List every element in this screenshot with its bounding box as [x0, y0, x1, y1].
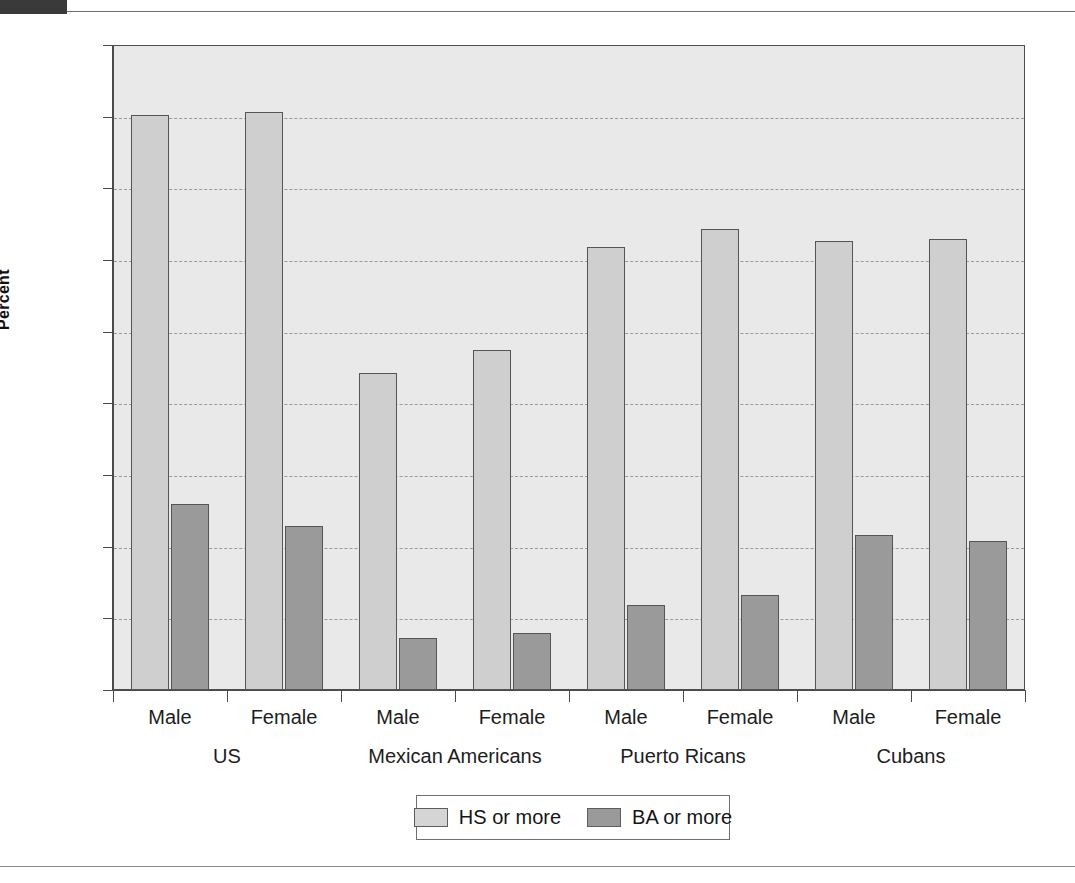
bar-hs-or-more — [701, 229, 739, 690]
bar-hs-or-more — [359, 373, 397, 690]
bar-hs-or-more — [587, 247, 625, 690]
y-axis-tick — [103, 45, 114, 46]
legend-item-hs[interactable]: HS or more — [414, 806, 561, 829]
footer-divider — [0, 866, 1075, 867]
y-axis-tick — [103, 475, 114, 476]
bar-hs-or-more — [815, 241, 853, 690]
dark-gray-swatch-icon — [587, 808, 621, 827]
bar-ba-or-more — [513, 633, 551, 690]
y-axis-tick — [103, 332, 114, 333]
y-axis-tick — [103, 547, 114, 548]
legend-label-hs: HS or more — [459, 806, 561, 829]
bar-hs-or-more — [929, 239, 967, 691]
x-axis-tick — [113, 690, 114, 702]
legend-item-ba[interactable]: BA or more — [587, 806, 732, 829]
y-axis-title: Percent — [0, 269, 13, 330]
x-axis-tick — [1025, 690, 1026, 702]
bar-hs-or-more — [131, 115, 169, 690]
bar-ba-or-more — [741, 595, 779, 690]
y-axis-tick — [103, 117, 114, 118]
x-axis-subgroup-label: Female — [893, 706, 1043, 729]
bar-hs-or-more — [245, 112, 283, 690]
chart-legend: HS or more BA or more — [416, 795, 730, 840]
legend-label-ba: BA or more — [632, 806, 732, 829]
y-axis-tick — [103, 403, 114, 404]
y-axis-tick — [103, 260, 114, 261]
x-axis-tick — [227, 690, 228, 702]
page-header-tab — [0, 0, 67, 14]
bar-ba-or-more — [627, 605, 665, 690]
x-axis-tick — [911, 690, 912, 702]
bar-ba-or-more — [969, 541, 1007, 690]
y-axis-tick — [103, 188, 114, 189]
x-axis-group-label: Cubans — [751, 745, 1071, 768]
bar-ba-or-more — [399, 638, 437, 690]
x-axis-tick — [341, 690, 342, 702]
x-axis-tick — [455, 690, 456, 702]
bar-ba-or-more — [855, 535, 893, 690]
y-axis-tick — [103, 618, 114, 619]
bar-ba-or-more — [285, 526, 323, 690]
x-axis-tick — [797, 690, 798, 702]
bar-hs-or-more — [473, 350, 511, 690]
bar-ba-or-more — [171, 504, 209, 690]
chart-page: Percent 0102030405060708090MaleFemaleUSM… — [0, 0, 1075, 883]
light-gray-swatch-icon — [414, 808, 448, 827]
x-axis-tick — [683, 690, 684, 702]
x-axis-tick — [569, 690, 570, 702]
header-divider — [67, 11, 1075, 12]
